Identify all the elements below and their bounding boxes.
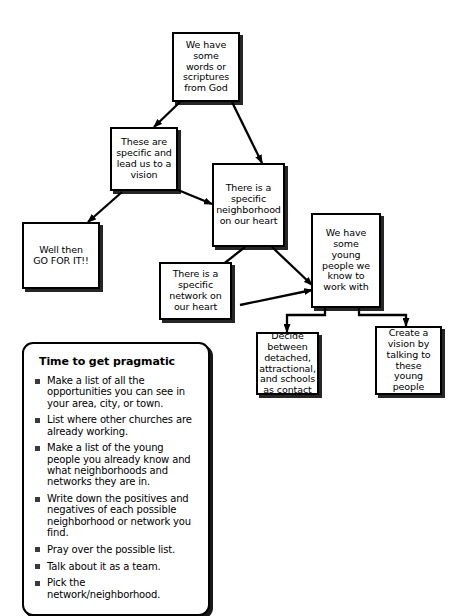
node-decide-contact-label: Decide between detached, attractional, a… (259, 331, 316, 396)
node-create-vision[interactable]: Create a vision by talking to these youn… (375, 326, 442, 395)
node-neighborhood[interactable]: There is a specific neighborhood on our … (212, 163, 285, 247)
node-specific-label: These are specific and lead us to a visi… (116, 137, 172, 180)
list-item: Write down the positives and negatives o… (35, 493, 198, 538)
node-network[interactable]: There is a specific network on our heart (159, 262, 232, 320)
node-go-for-it[interactable]: Well then GO FOR IT!! (22, 222, 100, 289)
node-decide-contact[interactable]: Decide between detached, attractional, a… (256, 332, 319, 395)
node-young-people[interactable]: We have some young people we know to wor… (311, 213, 381, 308)
node-specific[interactable]: These are specific and lead us to a visi… (110, 127, 178, 191)
pragmatic-panel: Time to get pragmatic Make a list of all… (22, 342, 210, 616)
node-words-label: We have some words or scriptures from Go… (183, 40, 229, 94)
edge-neighborhood-to-youngpeople (272, 247, 312, 285)
edge-specific-to-neighborhood (178, 190, 212, 204)
edge-specific-to-gofor (88, 192, 122, 222)
edge-network-to-youngpeople (240, 290, 312, 305)
edge-words-to-specific (154, 102, 180, 127)
list-item: Pick the network/neighborhood. (35, 577, 198, 600)
node-network-label: There is a specific network on our heart (169, 269, 221, 312)
list-item: Make a list of the young people you alre… (35, 442, 198, 487)
list-item: Talk about it as a team. (35, 561, 198, 572)
node-young-people-label: We have some young people we know to wor… (322, 228, 370, 293)
node-create-vision-label: Create a vision by talking to these youn… (387, 328, 431, 393)
list-item: List where other churches are already wo… (35, 414, 198, 437)
node-neighborhood-label: There is a specific neighborhood on our … (216, 183, 281, 226)
list-item: Pray over the possible list. (35, 544, 198, 555)
edge-youngpeople-to-createvision (359, 308, 406, 326)
pragmatic-list: Make a list of all the opportunities you… (35, 375, 198, 600)
pragmatic-title: Time to get pragmatic (39, 355, 198, 368)
node-go-for-it-label: Well then GO FOR IT!! (33, 245, 89, 267)
edge-youngpeople-to-decide (287, 308, 325, 332)
list-item: Make a list of all the opportunities you… (35, 375, 198, 409)
node-words[interactable]: We have some words or scriptures from Go… (172, 32, 240, 102)
edge-words-to-neighborhood (232, 102, 262, 163)
